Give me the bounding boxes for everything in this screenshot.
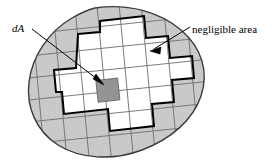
negligible-area-label: negligible area xyxy=(192,24,257,35)
differential-area-diagram: dA negligible area xyxy=(0,0,274,164)
da-label: dA xyxy=(12,23,24,34)
